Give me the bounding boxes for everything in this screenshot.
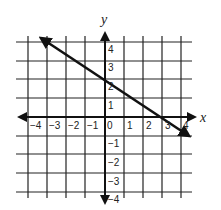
svg-text:2: 2 <box>108 81 114 92</box>
svg-text:3: 3 <box>108 62 114 73</box>
x-axis-label: x <box>199 110 207 125</box>
svg-text:1: 1 <box>127 120 133 131</box>
svg-text:−2: −2 <box>108 157 120 168</box>
svg-text:4: 4 <box>108 44 114 55</box>
y-axis-label: y <box>99 12 108 27</box>
svg-text:−4: −4 <box>108 194 120 205</box>
svg-text:3: 3 <box>165 120 171 131</box>
svg-text:0: 0 <box>107 120 113 131</box>
svg-text:−1: −1 <box>87 120 99 131</box>
coordinate-plane: x y −4 −3 −2 −1 0 1 2 3 4 4 3 2 1 −1 −2 … <box>0 0 221 210</box>
svg-text:−2: −2 <box>68 120 80 131</box>
svg-text:−3: −3 <box>49 120 61 131</box>
x-tick-labels: −4 −3 −2 −1 0 1 2 3 4 <box>30 120 189 131</box>
svg-text:1: 1 <box>108 100 114 111</box>
svg-text:−3: −3 <box>108 176 120 187</box>
svg-text:−1: −1 <box>108 138 120 149</box>
svg-text:4: 4 <box>183 120 189 131</box>
svg-text:2: 2 <box>146 120 152 131</box>
svg-text:−4: −4 <box>30 120 42 131</box>
